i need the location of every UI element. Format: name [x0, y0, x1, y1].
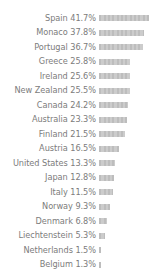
bar-row: Japan 12.8% [0, 171, 153, 186]
bar-fill [99, 15, 149, 21]
bar-row: New Zealand 25.5% [0, 84, 153, 99]
bar-track [98, 200, 153, 215]
bar-track [98, 55, 153, 70]
bar-row: Austria 16.5% [0, 142, 153, 157]
bar-fill [99, 204, 110, 210]
bar-track [98, 113, 153, 128]
bar-fill [99, 88, 130, 94]
bar-row: Spain 41.7% [0, 11, 153, 26]
bar-fill [99, 131, 125, 137]
bar-row-label: Australia 23.3% [0, 115, 98, 124]
bar-row: Liechtenstein 5.3% [0, 229, 153, 244]
bar-track [98, 214, 153, 229]
bar-row-label: Denmark 6.8% [0, 217, 98, 226]
bar-fill [99, 30, 144, 36]
bar-track [98, 40, 153, 55]
bar-fill [99, 218, 107, 224]
bar-row: Australia 23.3% [0, 113, 153, 128]
bar-fill [99, 73, 130, 79]
bar-row-label: United States 13.3% [0, 159, 98, 168]
bar-row-label: Monaco 37.8% [0, 28, 98, 37]
bar-track [98, 156, 153, 171]
bar-row: Denmark 6.8% [0, 214, 153, 229]
bar-fill [99, 262, 101, 268]
bar-row: Monaco 37.8% [0, 26, 153, 41]
bar-track [98, 84, 153, 99]
bar-row-label: Netherlands 1.5% [0, 246, 98, 255]
bar-row-label: Portugal 36.7% [0, 43, 98, 52]
bar-row: Greece 25.8% [0, 55, 153, 70]
bar-row-label: Canada 24.2% [0, 101, 98, 110]
bar-fill [99, 117, 127, 123]
bar-track [98, 258, 153, 272]
bar-row-label: Japan 12.8% [0, 173, 98, 182]
bar-row-label: Greece 25.8% [0, 57, 98, 66]
bar-row-label: Austria 16.5% [0, 144, 98, 153]
bar-track [98, 127, 153, 142]
bar-row: Canada 24.2% [0, 98, 153, 113]
bar-fill [99, 233, 105, 239]
bar-row-label: Ireland 25.6% [0, 72, 98, 81]
bar-row: Portugal 36.7% [0, 40, 153, 55]
bar-track [98, 185, 153, 200]
bar-track [98, 142, 153, 157]
bar-track [98, 26, 153, 41]
bar-row-label: Belgium 1.3% [0, 260, 98, 269]
bar-row-label: Finland 21.5% [0, 130, 98, 139]
bar-row: United States 13.3% [0, 156, 153, 171]
bar-row-label: Liechtenstein 5.3% [0, 231, 98, 240]
bar-row: Finland 21.5% [0, 127, 153, 142]
bar-fill [99, 44, 143, 50]
bar-fill [99, 160, 115, 166]
bar-track [98, 11, 153, 26]
bar-track [98, 243, 153, 258]
bar-fill [99, 189, 113, 195]
bar-fill [99, 146, 119, 152]
bar-row: Belgium 1.3% [0, 258, 153, 272]
bar-row-label: Italy 11.5% [0, 188, 98, 197]
bar-row-label: New Zealand 25.5% [0, 86, 98, 95]
bar-row: Ireland 25.6% [0, 69, 153, 84]
bar-fill [99, 59, 130, 65]
bar-row-label: Norway 9.3% [0, 202, 98, 211]
bar-track [98, 98, 153, 113]
bar-row: Italy 11.5% [0, 185, 153, 200]
bar-fill [99, 102, 128, 108]
bar-fill [99, 247, 101, 253]
bar-row: Norway 9.3% [0, 200, 153, 215]
bar-row: Netherlands 1.5% [0, 243, 153, 258]
bar-row-label: Spain 41.7% [0, 14, 98, 23]
bar-track [98, 69, 153, 84]
bar-track [98, 229, 153, 244]
bar-fill [99, 175, 114, 181]
bar-track [98, 171, 153, 186]
